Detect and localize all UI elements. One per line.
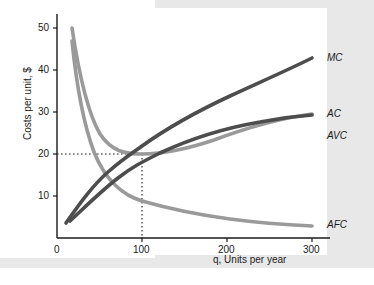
- x-tick-label-300: 300: [303, 244, 320, 255]
- x-axis-title: q, Units per year: [213, 254, 286, 265]
- curve-label-afc: AFC: [327, 219, 347, 230]
- y-tick-label-20: 20: [38, 148, 49, 159]
- x-tick-label-100: 100: [133, 244, 150, 255]
- curve-label-ac: AC: [327, 108, 341, 119]
- plot-canvas: [0, 0, 374, 285]
- y-tick-label-40: 40: [38, 64, 49, 75]
- curve-ac: [72, 28, 312, 154]
- cost-curves-figure: Costs per unit, $ q, Units per year 0 10…: [0, 0, 374, 285]
- curve-afc: [72, 41, 312, 226]
- y-tick-label-10: 10: [38, 190, 49, 201]
- y-tick-label-30: 30: [38, 106, 49, 117]
- y-axis-title: Costs per unit, $: [22, 67, 33, 140]
- curve-avc: [70, 115, 312, 221]
- curve-label-avc: AVC: [327, 130, 347, 141]
- x-tick-label-200: 200: [218, 244, 235, 255]
- curve-label-mc: MC: [327, 52, 343, 63]
- x-tick-label-0: 0: [54, 244, 60, 255]
- y-tick-label-50: 50: [38, 22, 49, 33]
